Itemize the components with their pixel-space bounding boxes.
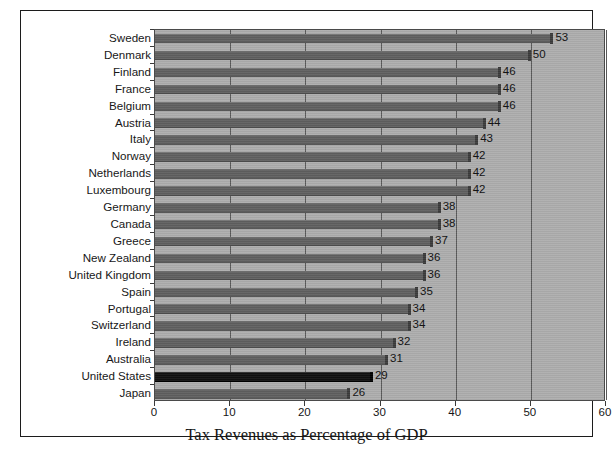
category-tick [150, 29, 154, 30]
category-tick [150, 147, 154, 148]
x-tick-label: 30 [360, 405, 400, 420]
bar-row [155, 301, 604, 319]
bar-end-cap [475, 135, 478, 146]
bar-row [155, 148, 604, 166]
bar-end-cap [393, 338, 396, 349]
bar-end-cap [438, 219, 441, 230]
category-tick [150, 367, 154, 368]
chart-outer-frame: SwedenDenmarkFinlandFranceBelgiumAustria… [20, 10, 593, 437]
bar-row [155, 115, 604, 133]
category-axis: SwedenDenmarkFinlandFranceBelgiumAustria… [26, 29, 151, 401]
x-tick-label: 20 [284, 405, 324, 420]
bar-end-cap [498, 84, 501, 95]
bar-value-label: 29 [375, 368, 388, 383]
bar-value-label: 32 [398, 334, 411, 349]
category-label: Norway [29, 147, 151, 165]
category-tick [150, 164, 154, 165]
bar-row [155, 267, 604, 285]
gridline-60 [606, 30, 607, 400]
bar-end-cap [550, 33, 553, 44]
bar-row [155, 199, 604, 217]
bar[interactable] [155, 85, 501, 95]
bar-value-label: 46 [503, 64, 516, 79]
bar-value-label: 42 [473, 165, 486, 180]
bar[interactable] [155, 372, 373, 382]
bar-value-label: 38 [443, 216, 456, 231]
bar[interactable] [155, 34, 553, 44]
category-tick [150, 232, 154, 233]
bar-end-cap [408, 321, 411, 332]
bar[interactable] [155, 338, 396, 348]
bar[interactable] [155, 186, 471, 196]
category-tick [150, 249, 154, 250]
category-label: Spain [29, 283, 151, 301]
bar[interactable] [155, 321, 411, 331]
bar[interactable] [155, 152, 471, 162]
category-label: United Kingdom [29, 266, 151, 284]
category-tick [150, 46, 154, 47]
bar-value-label: 37 [435, 233, 448, 248]
bar-end-cap [528, 50, 531, 61]
category-label: Austria [29, 114, 151, 132]
x-tick-label: 0 [134, 405, 174, 420]
bar-value-label: 26 [352, 385, 365, 400]
bar[interactable] [155, 254, 426, 264]
bar-row [155, 351, 604, 369]
category-tick [150, 130, 154, 131]
bar-value-label: 43 [480, 131, 493, 146]
category-tick [150, 198, 154, 199]
bar[interactable] [155, 102, 501, 112]
bar-row [155, 334, 604, 352]
bar[interactable] [155, 51, 531, 61]
category-tick [150, 114, 154, 115]
bar-value-label: 34 [413, 317, 426, 332]
category-tick [150, 283, 154, 284]
bar-row [155, 182, 604, 200]
x-tick-label: 60 [585, 405, 616, 420]
bar-value-label: 31 [390, 351, 403, 366]
bar-value-label: 35 [420, 284, 433, 299]
bar-row [155, 317, 604, 335]
category-tick [150, 300, 154, 301]
category-tick [150, 333, 154, 334]
bar[interactable] [155, 169, 471, 179]
category-label: Switzerland [29, 316, 151, 334]
bar-end-cap [468, 169, 471, 180]
bar-row [155, 250, 604, 268]
bar[interactable] [155, 271, 426, 281]
category-tick [150, 181, 154, 182]
category-label: Ireland [29, 333, 151, 351]
bar-end-cap [408, 304, 411, 315]
bar-value-label: 36 [428, 267, 441, 282]
bar[interactable] [155, 220, 441, 230]
bar-end-cap [430, 236, 433, 247]
bar-value-label: 46 [503, 98, 516, 113]
bar-row [155, 98, 604, 116]
bar[interactable] [155, 288, 418, 298]
bar[interactable] [155, 135, 478, 145]
bar-row [155, 64, 604, 82]
category-label: Australia [29, 350, 151, 368]
category-tick [150, 266, 154, 267]
bar-row [155, 284, 604, 302]
plot-area [154, 29, 605, 401]
category-tick [150, 215, 154, 216]
bar[interactable] [155, 389, 350, 399]
category-label: Portugal [29, 300, 151, 318]
bar[interactable] [155, 237, 433, 247]
bar[interactable] [155, 68, 501, 78]
x-tick-label: 50 [510, 405, 550, 420]
bar-end-cap [415, 287, 418, 298]
category-label: Italy [29, 130, 151, 148]
bar[interactable] [155, 355, 388, 365]
category-label: France [29, 80, 151, 98]
bar[interactable] [155, 203, 441, 213]
bar-row [155, 30, 604, 48]
bar-end-cap [438, 202, 441, 213]
bar-end-cap [423, 253, 426, 264]
bar[interactable] [155, 304, 411, 314]
bar-value-label: 44 [488, 115, 501, 130]
bar[interactable] [155, 118, 486, 128]
bar-value-label: 42 [473, 182, 486, 197]
